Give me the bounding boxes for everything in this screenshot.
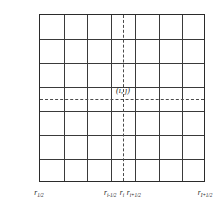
label-subscript: i+1/2 <box>130 192 141 198</box>
dashed-horizontal-centerline <box>40 99 204 100</box>
grid-area: (i, j) <box>39 14 205 182</box>
grid-line-horizontal <box>40 111 204 112</box>
figure-root: ZJ+1/2Zj+1/2ZjZj-1/2Z1/2 r1/2ri-1/2riri+… <box>0 0 219 211</box>
grid-line-horizontal <box>40 159 204 160</box>
label-subscript: i-1/2 <box>107 192 116 198</box>
x-axis-tick-label: rI+1/2 <box>198 189 212 197</box>
grid-line-horizontal <box>40 39 204 40</box>
dashed-vertical-centerline <box>123 15 124 181</box>
x-axis-tick-label: ri+1/2 <box>127 189 141 197</box>
y-axis-label-group: ZJ+1/2Zj+1/2ZjZj-1/2Z1/2 <box>0 0 36 211</box>
grid-line-horizontal <box>40 63 204 64</box>
x-axis-tick-label: ri <box>120 189 124 197</box>
grid-line-horizontal <box>40 135 204 136</box>
x-axis-tick-label: r1/2 <box>34 189 43 197</box>
label-subscript: i <box>123 192 124 198</box>
label-subscript: I+1/2 <box>201 192 212 198</box>
label-subscript: 1/2 <box>37 192 43 198</box>
x-axis-tick-label: ri-1/2 <box>104 189 116 197</box>
cell-index-annotation: (i, j) <box>116 87 130 95</box>
